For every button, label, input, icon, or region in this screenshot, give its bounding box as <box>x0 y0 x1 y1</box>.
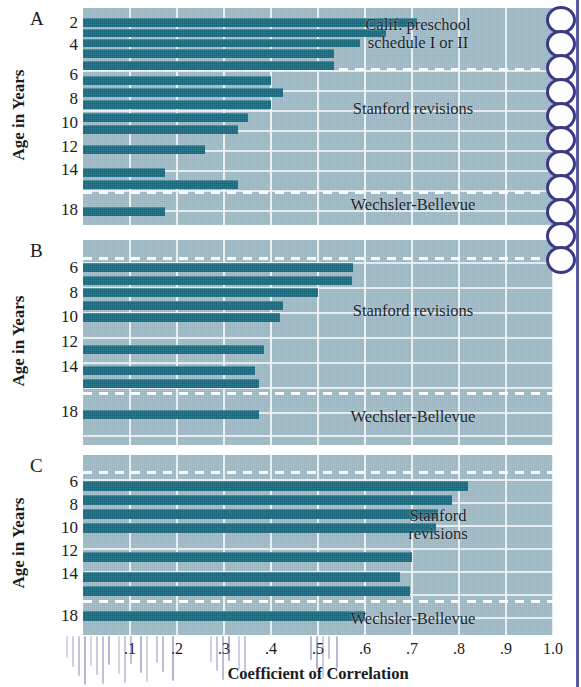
bar <box>83 366 255 375</box>
panel-a: A Age in Years 246810121418 Calif. presc… <box>0 8 581 225</box>
bar <box>83 39 360 47</box>
test-group-label: Wechsler-Bellevue <box>318 196 508 214</box>
y-axis-tick-label: 12 <box>61 138 78 155</box>
y-axis-tick-label: 8 <box>70 90 79 107</box>
bar <box>83 276 352 285</box>
group-divider-dashed-line <box>83 191 553 194</box>
bar <box>83 410 259 419</box>
y-axis-tick-label: 18 <box>61 607 78 624</box>
bar <box>83 88 283 97</box>
bar <box>83 76 271 85</box>
panel-b-plot-area: Stanford revisionsWechsler-Bellevue <box>83 240 553 445</box>
bar <box>83 495 452 505</box>
panel-a-plot-area: Calif. preschool schedule I or IIStanfor… <box>83 8 553 225</box>
horizontal-gridline <box>83 435 553 437</box>
bar <box>83 49 334 58</box>
y-axis-tick-label: 14 <box>61 565 78 582</box>
group-divider-dashed-line <box>83 471 553 474</box>
bar <box>83 113 248 122</box>
horizontal-gridline <box>83 337 553 339</box>
y-axis-tick-label: 10 <box>61 308 78 325</box>
y-axis-tick-label: 12 <box>61 542 78 559</box>
panel-b-y-labels: 6810121418 <box>42 240 78 445</box>
y-axis-tick-label: 18 <box>61 201 78 218</box>
test-group-label: Stanford revisions <box>318 302 508 320</box>
y-axis-tick-label: 8 <box>70 496 79 513</box>
group-divider-dashed-line <box>83 257 553 260</box>
bar <box>83 61 334 70</box>
x-axis-tick-label: .7 <box>406 640 418 658</box>
panel-b-y-axis-title: Age in Years <box>9 266 29 416</box>
x-axis-tick-label: .6 <box>359 640 371 658</box>
y-axis-tick-label: 10 <box>61 114 78 131</box>
y-axis-tick-label: 18 <box>61 403 78 420</box>
vertical-gridline <box>505 455 507 635</box>
x-axis-tick-label: 1.0 <box>543 640 563 658</box>
y-axis-tick-label: 14 <box>61 161 78 178</box>
horizontal-gridline <box>83 548 553 550</box>
bar <box>83 481 468 491</box>
group-divider-dashed-line <box>83 600 553 603</box>
panel-a-y-labels: 246810121418 <box>42 8 78 225</box>
test-group-label: Wechsler-Bellevue <box>318 610 508 628</box>
panel-b: B Age in Years 6810121418 Stanford revis… <box>0 240 581 445</box>
x-axis-tick-label: .2 <box>171 640 183 658</box>
bar <box>83 586 410 596</box>
panel-a-y-axis-title: Age in Years <box>9 40 29 190</box>
x-axis-tick-label: .5 <box>312 640 324 658</box>
test-group-label: Stanford revisions <box>318 100 508 118</box>
bar <box>83 180 238 189</box>
y-axis-tick-label: 6 <box>70 66 79 83</box>
bar <box>83 207 165 216</box>
bar <box>83 100 271 109</box>
x-axis-tick-label: .3 <box>218 640 230 658</box>
y-axis-tick-label: 4 <box>70 36 79 53</box>
bar <box>83 379 259 388</box>
bar <box>83 552 412 562</box>
vertical-gridline <box>552 455 553 635</box>
test-group-label: Calif. preschool schedule I or II <box>328 16 508 53</box>
bar <box>83 301 283 310</box>
bar <box>83 288 318 297</box>
bar <box>83 125 238 134</box>
panel-c: C Age in Years 6810121418 Stanford revis… <box>0 455 581 635</box>
y-axis-tick-label: 2 <box>70 14 79 31</box>
panel-c-y-axis-title: Age in Years <box>9 468 29 618</box>
x-axis: Coefficient of Correlation .1.2.3.4.5.6.… <box>0 640 581 687</box>
panel-c-y-labels: 6810121418 <box>42 455 78 635</box>
figure-root: A Age in Years 246810121418 Calif. presc… <box>0 0 581 687</box>
bar <box>83 263 353 272</box>
group-divider-dashed-line <box>83 392 553 395</box>
y-axis-tick-label: 8 <box>70 284 79 301</box>
bar <box>83 313 280 322</box>
x-axis-tick-label: .4 <box>265 640 277 658</box>
y-axis-tick-label: 10 <box>61 519 78 536</box>
x-axis-tick-label: .8 <box>453 640 465 658</box>
x-axis-tick-label: .9 <box>500 640 512 658</box>
x-axis-tick-label: .1 <box>124 640 136 658</box>
y-axis-tick-label: 14 <box>61 358 78 375</box>
y-axis-tick-label: 6 <box>70 473 79 490</box>
bar <box>83 345 264 354</box>
test-group-label: Wechsler-Bellevue <box>318 408 508 426</box>
test-group-label: Stanford revisions <box>368 507 508 544</box>
vertical-gridline <box>552 240 553 445</box>
y-axis-tick-label: 6 <box>70 259 79 276</box>
bar <box>83 168 165 177</box>
panel-c-plot-area: Stanford revisionsWechsler-Bellevue <box>83 455 553 635</box>
bar <box>83 145 205 154</box>
horizontal-gridline <box>83 362 553 364</box>
y-axis-tick-label: 12 <box>61 333 78 350</box>
bar <box>83 572 400 582</box>
x-axis-title: Coefficient of Correlation <box>83 664 553 684</box>
